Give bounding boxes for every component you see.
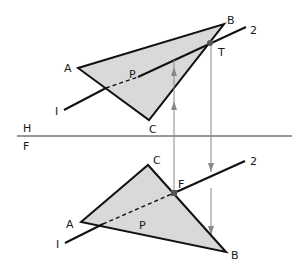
label-f: F [23, 140, 29, 153]
line-12-top-visible-start [64, 88, 106, 110]
point-f-marker [171, 190, 177, 196]
label-line-start-top: I [55, 105, 58, 118]
plane-abc-front [81, 165, 226, 252]
label-line-end-front: 2 [250, 155, 257, 168]
label-b-front: B [231, 249, 239, 262]
front-view: C A B I 2 P F [56, 154, 257, 262]
label-line-start-front: I [56, 238, 59, 251]
label-h: H [23, 122, 31, 135]
label-c-front: C [153, 154, 161, 167]
label-p-top: P [129, 68, 136, 81]
label-a-front: A [66, 218, 74, 231]
label-p-front: P [139, 219, 146, 232]
label-line-end-top: 2 [250, 24, 257, 37]
descriptive-geometry-diagram: A B C I 2 P T H F C A B I 2 P F [0, 0, 305, 268]
label-f-point: F [178, 178, 184, 191]
label-b-top: B [227, 14, 235, 27]
label-t-top: T [217, 46, 225, 59]
point-t-marker [207, 40, 213, 46]
top-view: A B C I 2 P T [55, 14, 257, 136]
label-a-top: A [64, 62, 72, 75]
label-c-top: C [149, 123, 157, 136]
